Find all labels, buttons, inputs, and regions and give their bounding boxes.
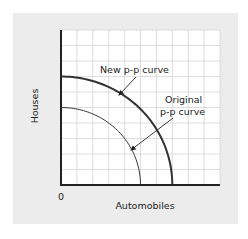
origin-label: 0 bbox=[58, 191, 64, 202]
new-curve-label: New p-p curve bbox=[100, 64, 169, 75]
y-axis-label: Houses bbox=[29, 89, 40, 124]
original-curve-label-line1: Original bbox=[165, 94, 202, 105]
x-axis-label: Automobiles bbox=[115, 200, 174, 211]
ppf-chart: New p-p curve Original p-p curve 0 Autom… bbox=[0, 0, 248, 239]
original-curve-label-line2: p-p curve bbox=[160, 106, 205, 117]
